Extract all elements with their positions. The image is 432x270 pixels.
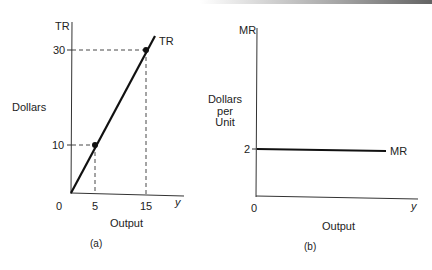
panel-b-x-axis	[256, 196, 418, 199]
tr-curve-label: TR	[159, 35, 174, 47]
panel-b-ylabel-line3: Unit	[215, 116, 235, 128]
tick-label-10: 10	[52, 139, 64, 151]
tick-label-30: 30	[53, 44, 65, 56]
tr-curve	[71, 36, 155, 193]
panel-b-y-axis-name: MR	[239, 24, 256, 36]
point-15-30	[143, 47, 149, 53]
panel-a-x-axis-name: y	[174, 196, 182, 208]
panel-b-xlabel: Output	[322, 220, 355, 232]
panel-b: MR Dollars per Unit 2 MR 0 y Output (b)	[208, 24, 418, 252]
panel-b-y-axis	[256, 28, 257, 197]
panel-b-label: (b)	[304, 241, 316, 252]
point-5-10	[92, 142, 98, 148]
diagram-canvas: TR 30 10 Dollars TR 0 5 15 y Output (a) …	[0, 0, 432, 270]
panel-b-origin-label: 0	[251, 202, 257, 214]
panel-a: TR 30 10 Dollars TR 0 5 15 y Output (a)	[12, 20, 184, 249]
tick-label-5: 5	[92, 200, 98, 212]
panel-a-ylabel: Dollars	[12, 101, 47, 113]
mr-curve	[257, 149, 386, 151]
tick-label-15: 15	[140, 200, 152, 212]
panel-a-origin-label: 0	[56, 200, 62, 212]
panel-a-y-axis-name: TR	[55, 20, 70, 32]
panel-a-x-axis	[71, 193, 184, 196]
panel-a-label: (a)	[90, 238, 102, 249]
tick-label-2: 2	[244, 143, 250, 155]
panel-b-ylabel-line1: Dollars	[208, 93, 243, 105]
panel-b-x-axis-name: y	[410, 200, 418, 212]
mr-curve-label: MR	[390, 145, 407, 157]
panel-a-xlabel: Output	[110, 217, 143, 229]
panel-a-y-axis	[71, 22, 72, 194]
